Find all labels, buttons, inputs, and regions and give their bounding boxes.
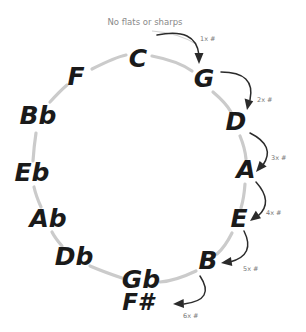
sharp-count-2: 2x #: [257, 96, 273, 104]
note-label-db: Db: [55, 242, 94, 271]
note-label-ab: Ab: [27, 204, 66, 233]
note-label-c: C: [129, 44, 148, 73]
arrow-b-to-fsharp: [173, 276, 205, 308]
sharp-count-3: 3x #: [271, 154, 287, 162]
sharp-count-6: 6x #: [183, 312, 199, 320]
no-accidentals-caption: No flats or sharps: [107, 17, 183, 27]
ring-arc-f-c: [92, 55, 126, 69]
note-labels: CGDAEBGbF#DbAbEbBbF: [15, 44, 256, 315]
circle-of-fifths-diagram: No flats or sharps CGDAEBGbF#DbAbEbBbF 1…: [0, 0, 306, 332]
note-label-eb: Eb: [15, 158, 50, 187]
note-label-b: B: [198, 246, 217, 275]
note-label-a: A: [234, 155, 255, 184]
note-label-d: D: [226, 107, 247, 136]
ring-arc-b-gb: [160, 271, 196, 282]
arrow-e-to-b: [221, 231, 248, 266]
note-label-bb: Bb: [20, 101, 57, 130]
ring-arc-e-b: [217, 233, 232, 254]
sharp-count-1: 1x #: [200, 35, 216, 43]
note-label-e: E: [230, 204, 247, 233]
arrow-a-to-e: [250, 182, 266, 221]
ring-arc-bb-f: [50, 85, 67, 102]
note-label-g: G: [194, 64, 215, 93]
ring-arc-gb-db: [90, 266, 122, 278]
sharp-count-4: 4x #: [266, 209, 282, 217]
ring-arc-c-g: [152, 56, 192, 71]
ring-arc-eb-bb: [33, 133, 36, 161]
sharp-count-5: 5x #: [243, 265, 259, 273]
note-label-fsharp: F#: [122, 289, 156, 315]
note-label-f: F: [67, 62, 84, 91]
